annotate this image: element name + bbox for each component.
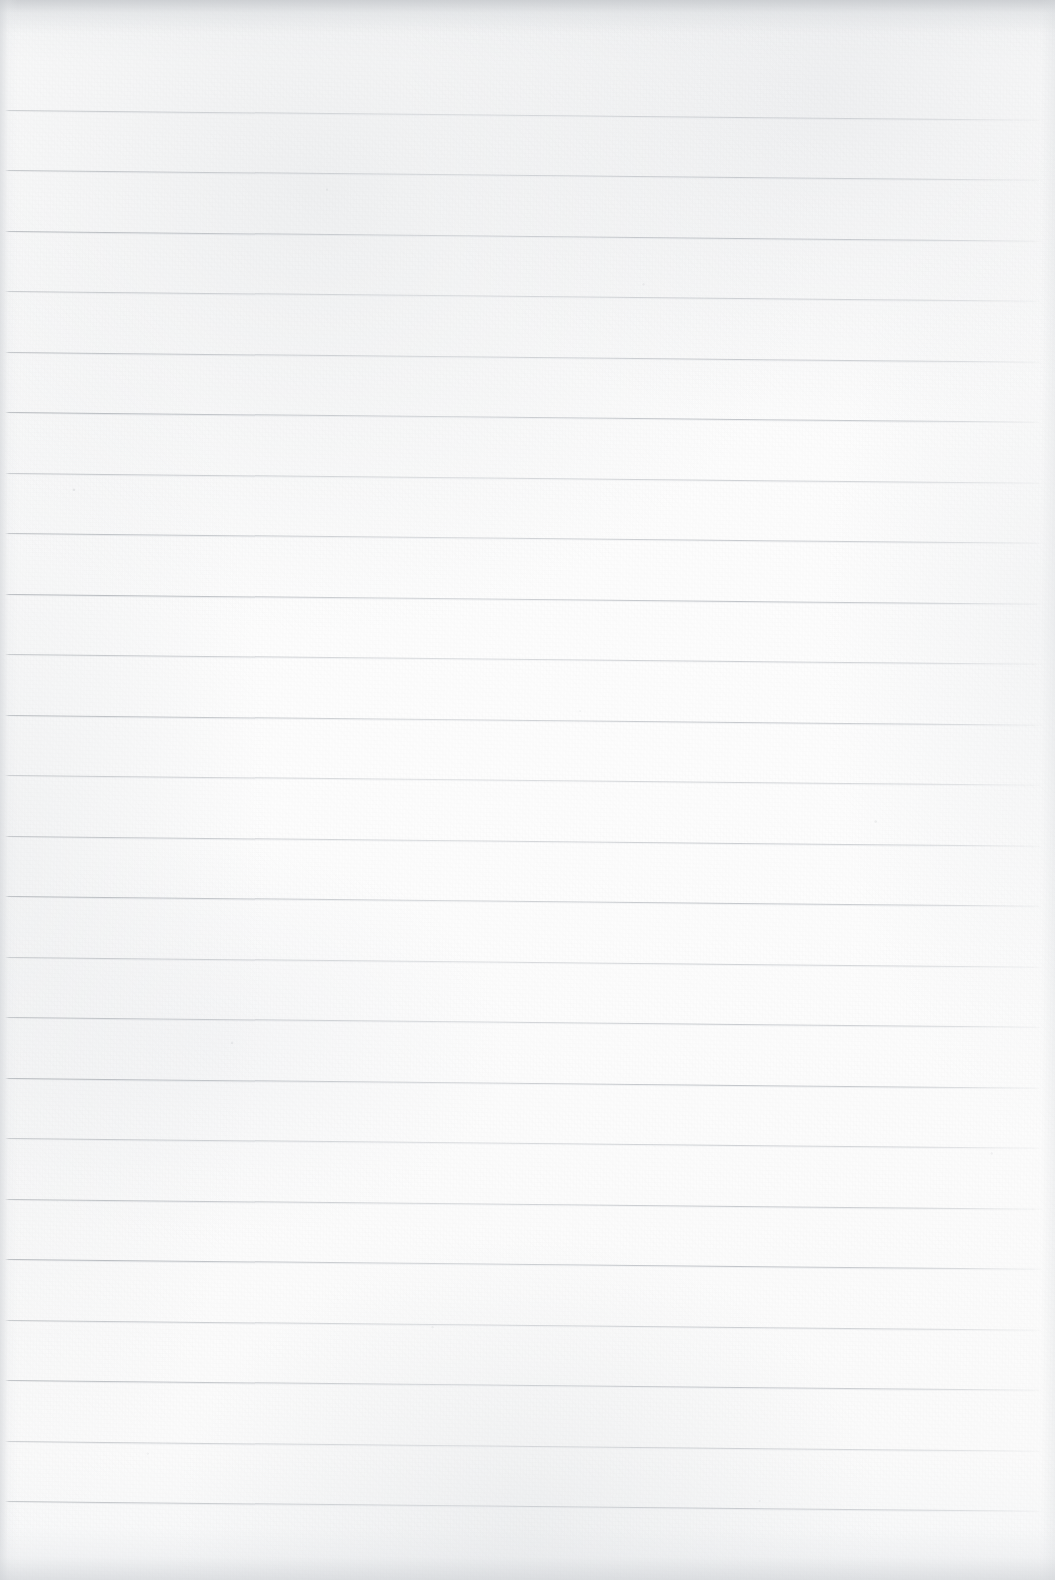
page-written-content (0, 0, 1055, 1580)
scanned-page (0, 0, 1055, 1580)
